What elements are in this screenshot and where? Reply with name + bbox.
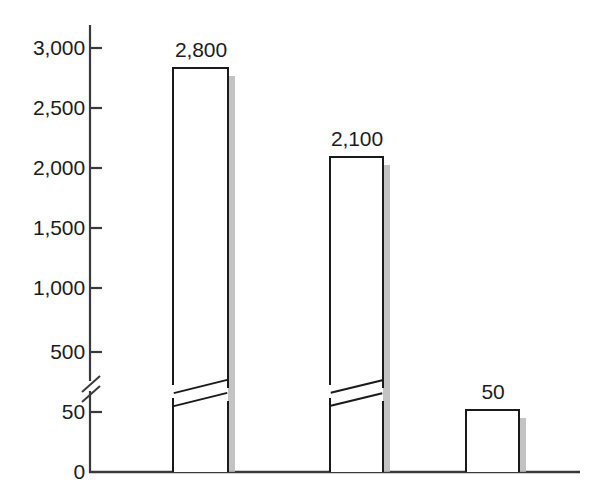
y-tick-label-2000: 2,000 [33, 156, 85, 180]
bar-group-2 [330, 157, 390, 472]
bar-group-3 [466, 410, 526, 472]
bar-value-label-3: 50 [481, 380, 504, 404]
y-tick-label-3000: 3,000 [33, 36, 85, 60]
y-tick-label-500: 500 [50, 340, 85, 364]
bar-body-upper-1 [173, 68, 228, 388]
y-axis-ticks [90, 48, 102, 412]
chart-canvas [0, 0, 603, 496]
y-tick-label-1000: 1,000 [33, 276, 85, 300]
bar-shadow-1 [228, 76, 235, 472]
bar-shadow-2 [383, 165, 390, 472]
bar-body-3 [466, 410, 519, 472]
bar-value-label-1: 2,800 [175, 38, 227, 62]
bar-shadow-3 [519, 418, 526, 472]
bar-body-lower-2 [330, 398, 383, 472]
bar-body-upper-2 [330, 157, 383, 388]
bar-chart: 3,000 2,500 2,000 1,500 1,000 500 50 0 2… [0, 0, 603, 496]
bar-body-lower-1 [173, 398, 228, 472]
y-tick-label-0: 0 [73, 460, 85, 484]
y-tick-label-2500: 2,500 [33, 96, 85, 120]
y-tick-label-1500: 1,500 [33, 216, 85, 240]
y-tick-label-50: 50 [62, 400, 85, 424]
bar-value-label-2: 2,100 [331, 127, 383, 151]
bar-group-1 [173, 68, 235, 472]
